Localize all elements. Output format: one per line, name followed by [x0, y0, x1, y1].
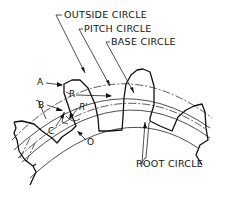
- point-c-label: C: [48, 126, 54, 136]
- radius-r-prime-label: R': [79, 102, 88, 112]
- pitch-circle-label: PITCH CIRCLE: [84, 23, 152, 34]
- c-arrowhead: [60, 112, 65, 119]
- outside-circle-leader: [56, 15, 85, 73]
- left-dash-lines-2: [26, 141, 36, 162]
- pitch-circle-leader: [79, 29, 110, 86]
- root-circle-label: ROOT CIRCLE: [136, 158, 203, 169]
- root-circle-leader-line: [142, 122, 145, 163]
- radius-r-label: R: [69, 89, 75, 99]
- outside-circle-arrowhead: [81, 67, 85, 73]
- root-circle-arc: [30, 127, 198, 178]
- outside-circle-label: OUTSIDE CIRCLE: [64, 9, 147, 20]
- o-arrowhead: [77, 131, 83, 136]
- r-arrowhead: [106, 93, 112, 98]
- point-b-label: B: [38, 100, 44, 110]
- point-a-label: A: [37, 77, 44, 87]
- base-circle-label: BASE CIRCLE: [111, 36, 176, 47]
- base-circle-arrowhead: [130, 87, 134, 93]
- a-arrowhead: [57, 82, 63, 87]
- root-circle-arrowhead: [143, 122, 147, 128]
- point-o-label: O: [87, 137, 94, 147]
- gear-tooth-diagram: OUTSIDE CIRCLE PITCH CIRCLE BASE CIRCLE …: [0, 0, 228, 205]
- r-leader: [76, 95, 110, 96]
- base-circle-leader: [106, 42, 134, 93]
- b-arrowhead: [56, 107, 63, 111]
